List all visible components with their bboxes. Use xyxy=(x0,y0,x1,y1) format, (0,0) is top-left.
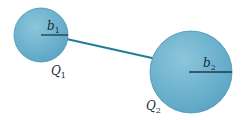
sphere-2-charge-label: Q2 xyxy=(146,99,161,115)
two-spheres-diagram: b1 Q1 b2 Q2 xyxy=(0,0,245,120)
sphere-1-charge-label: Q1 xyxy=(51,64,66,80)
connecting-wire xyxy=(62,38,152,58)
